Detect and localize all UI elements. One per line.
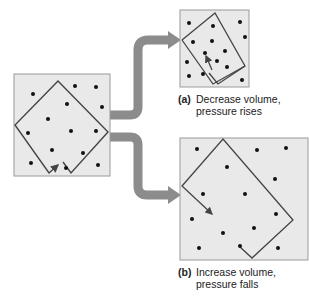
panel-initial xyxy=(14,74,110,176)
panel-increase-volume xyxy=(180,138,308,260)
caption-tag: (a) xyxy=(178,93,196,105)
caption-line1: Decrease volume, xyxy=(196,93,281,105)
caption-line2: pressure rises xyxy=(178,105,281,117)
arrow-to-increase-volume xyxy=(110,137,181,204)
gas-volume-pressure-diagram xyxy=(0,0,309,299)
caption-line2: pressure falls xyxy=(178,278,276,290)
caption-line1: Increase volume, xyxy=(196,266,276,278)
caption-tag: (b) xyxy=(178,266,196,278)
arrow-to-decrease-volume xyxy=(110,31,181,115)
caption-increase-volume: (b)Increase volume, pressure falls xyxy=(178,266,276,290)
panel-decrease-volume xyxy=(180,10,249,87)
caption-decrease-volume: (a)Decrease volume, pressure rises xyxy=(178,93,281,117)
